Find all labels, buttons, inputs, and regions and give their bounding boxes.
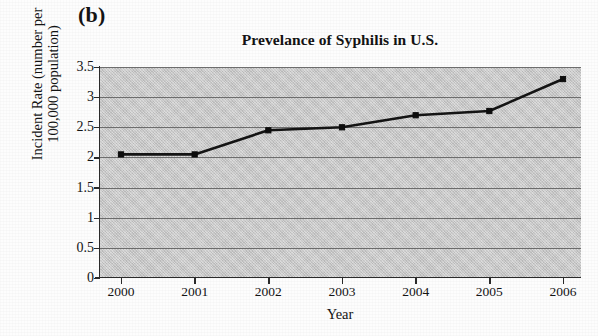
data-series-incident-rate (118, 76, 565, 157)
data-point-marker (339, 125, 344, 130)
y-tick-label: 2.5 (60, 120, 94, 134)
x-tick-label: 2001 (165, 285, 225, 299)
y-tick-label: 0 (60, 271, 94, 285)
y-tick-label: 0.5 (60, 241, 94, 255)
y-tick-label: 2 (60, 150, 94, 164)
data-point-marker (192, 152, 197, 157)
data-point-marker (560, 76, 565, 81)
data-point-marker (487, 108, 492, 113)
tick-marks (94, 68, 564, 285)
figure-panel: (b) Prevelance of Syphilis in U.S. Incid… (0, 0, 598, 336)
plot-area (99, 67, 581, 278)
x-tick-label: 2003 (312, 285, 372, 299)
x-tick-label: 2005 (459, 285, 519, 299)
y-tick-label: 3 (60, 90, 94, 104)
series-line (121, 79, 563, 154)
plot-canvas (99, 67, 581, 278)
y-tick-label: 3.5 (60, 60, 94, 74)
chart-title: Prevelance of Syphilis in U.S. (96, 31, 584, 49)
y-axis-tick-labels: 00.511.522.533.5 (56, 67, 94, 278)
x-tick-label: 2002 (238, 285, 298, 299)
y-tick-label: 1.5 (60, 181, 94, 195)
data-point-marker (266, 128, 271, 133)
y-axis-title-line-1: Incident Rate (number per (30, 8, 46, 161)
data-point-marker (413, 113, 418, 118)
panel-label: (b) (78, 2, 106, 28)
x-tick-label: 2000 (91, 285, 151, 299)
x-tick-label: 2004 (386, 285, 446, 299)
y-tick-label: 1 (60, 211, 94, 225)
data-point-marker (118, 152, 123, 157)
x-tick-label: 2006 (533, 285, 593, 299)
gridlines (99, 68, 581, 249)
x-axis-title: Year (99, 306, 581, 323)
x-axis-tick-labels: 2000200120022003200420052006 (99, 285, 581, 303)
